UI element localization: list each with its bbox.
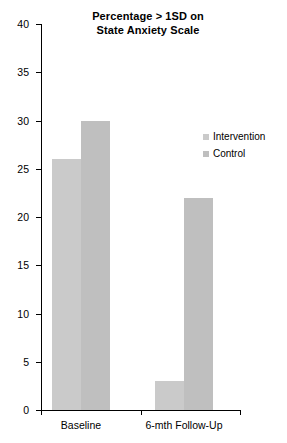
- chart-container: Percentage > 1SD on State Anxiety Scale …: [0, 0, 287, 443]
- legend-label-control: Control: [213, 148, 245, 159]
- legend-swatch-icon-intervention: [203, 134, 209, 140]
- x-tick-1: [141, 410, 142, 415]
- bar-intervention-baseline: [52, 159, 81, 410]
- y-tick-10: 10: [36, 314, 41, 315]
- y-tick-label-15: 15: [17, 259, 29, 271]
- y-tick-label-10: 10: [17, 308, 29, 320]
- chart-legend: Intervention Control: [203, 128, 265, 162]
- y-tick-label-5: 5: [23, 356, 29, 368]
- legend-item-control: Control: [203, 145, 265, 162]
- y-tick-35: 35: [36, 72, 41, 73]
- y-tick-20: 20: [36, 217, 41, 218]
- y-tick-40: 40: [36, 24, 41, 25]
- y-tick-label-40: 40: [17, 18, 29, 30]
- legend-item-intervention: Intervention: [203, 128, 265, 145]
- bar-control-baseline: [81, 121, 110, 411]
- x-tick-0: [41, 410, 42, 415]
- y-tick-30: 30: [36, 121, 41, 122]
- bar-intervention-6-mth-follow-up: [155, 381, 184, 410]
- y-tick-label-0: 0: [23, 404, 29, 416]
- y-tick-15: 15: [36, 265, 41, 266]
- legend-swatch-icon-control: [203, 151, 209, 157]
- y-tick-5: 5: [36, 362, 41, 363]
- plot-area: 0510152025303540: [41, 24, 240, 410]
- y-tick-label-25: 25: [17, 163, 29, 175]
- y-tick-25: 25: [36, 169, 41, 170]
- chart-title-line-1: Percentage > 1SD on: [63, 9, 233, 23]
- y-tick-label-35: 35: [17, 66, 29, 78]
- x-axis-label-baseline: Baseline: [21, 419, 141, 431]
- y-tick-label-30: 30: [17, 115, 29, 127]
- bar-control-6-mth-follow-up: [184, 198, 213, 410]
- legend-label-intervention: Intervention: [213, 131, 265, 142]
- y-tick-label-20: 20: [17, 211, 29, 223]
- x-axis-label-6-mth-follow-up: 6-mth Follow-Up: [124, 419, 244, 431]
- x-tick-2: [240, 410, 241, 415]
